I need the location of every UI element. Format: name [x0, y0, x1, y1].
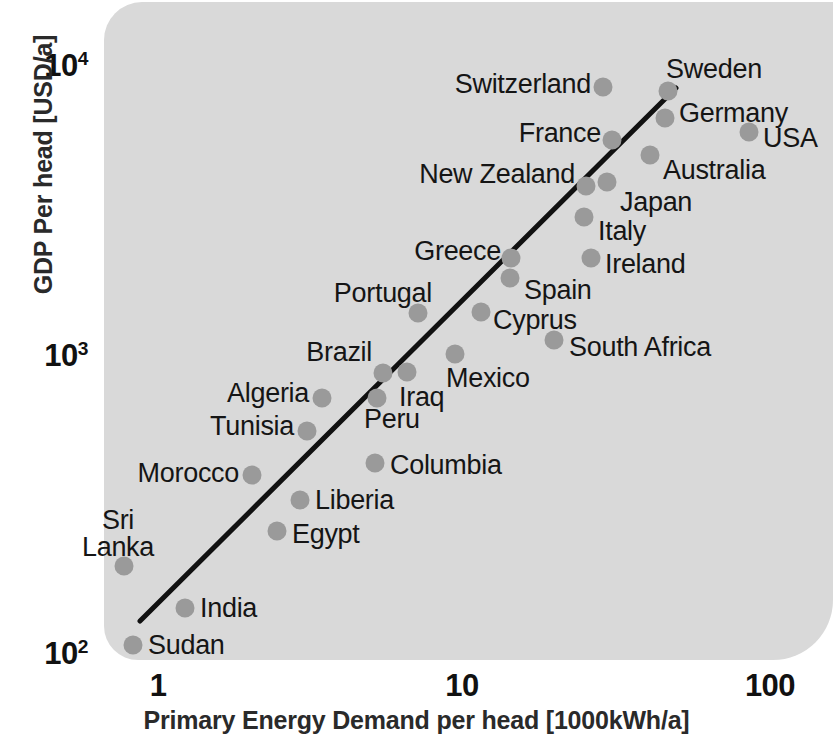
datapoint-greece[interactable]: [502, 249, 521, 268]
datapoint-algeria[interactable]: [313, 389, 332, 408]
point-label-south-africa: South Africa: [569, 333, 711, 361]
point-label-liberia: Liberia: [315, 486, 394, 514]
point-label-sri-lanka-line2: Lanka: [82, 534, 154, 561]
point-label-australia: Australia: [663, 156, 765, 184]
point-label-portugal: Portugal: [334, 279, 432, 307]
datapoint-india[interactable]: [176, 599, 195, 618]
point-label-cyprus: Cyprus: [493, 306, 577, 334]
datapoint-cyprus[interactable]: [472, 303, 491, 322]
point-label-india: India: [200, 594, 257, 622]
datapoint-brazil[interactable]: [374, 364, 393, 383]
point-label-france: France: [519, 119, 601, 147]
x-axis-title: Primary Energy Demand per head [1000kWh/…: [0, 706, 833, 735]
datapoint-iraq[interactable]: [398, 363, 417, 382]
point-label-morocco: Morocco: [138, 459, 239, 487]
point-label-usa: USA: [763, 124, 818, 152]
point-label-new-zealand: New Zealand: [419, 160, 575, 188]
y-tick-10e2-exp: 2: [78, 636, 88, 657]
point-label-sweden: Sweden: [666, 55, 762, 83]
point-label-ireland: Ireland: [605, 250, 685, 278]
y-tick-10e4-exp: 4: [78, 48, 88, 69]
chart-figure: Sudan India Sri Lanka Egypt Liberia Moro…: [0, 0, 833, 738]
datapoint-liberia[interactable]: [291, 491, 310, 510]
datapoint-columbia[interactable]: [366, 454, 385, 473]
point-label-sudan: Sudan: [148, 631, 225, 659]
datapoint-germany[interactable]: [656, 109, 675, 128]
point-label-columbia: Columbia: [390, 451, 502, 479]
y-tick-10e2-base: 10: [44, 636, 77, 671]
datapoint-mexico[interactable]: [446, 345, 465, 364]
point-label-tunisia: Tunisia: [210, 412, 294, 440]
point-label-spain: Spain: [524, 276, 592, 304]
datapoint-spain[interactable]: [501, 269, 520, 288]
y-axis-title: GDP Per head [USD/a]: [29, 15, 58, 315]
datapoint-tunisia[interactable]: [298, 422, 317, 441]
point-label-switzerland: Switzerland: [455, 70, 591, 98]
datapoint-australia[interactable]: [641, 146, 660, 165]
datapoint-japan[interactable]: [598, 173, 617, 192]
point-label-italy: Italy: [598, 217, 646, 245]
y-tick-10e3: 103: [0, 338, 94, 374]
datapoint-switzerland[interactable]: [594, 78, 613, 97]
point-label-japan: Japan: [620, 188, 692, 216]
y-tick-10e3-base: 10: [44, 338, 77, 373]
point-label-algeria: Algeria: [227, 379, 309, 407]
point-label-sri-lanka-line1: Sri: [82, 507, 154, 534]
datapoint-sweden[interactable]: [659, 82, 678, 101]
point-label-sri-lanka: Sri Lanka: [82, 507, 154, 561]
datapoint-france[interactable]: [603, 131, 622, 150]
point-label-brazil: Brazil: [306, 338, 372, 366]
point-label-iraq: Iraq: [399, 383, 444, 411]
datapoint-morocco[interactable]: [243, 466, 262, 485]
point-label-egypt: Egypt: [292, 520, 360, 548]
x-tick-1: 1: [150, 668, 167, 704]
datapoint-new-zealand[interactable]: [577, 177, 596, 196]
datapoint-sudan[interactable]: [124, 636, 143, 655]
datapoint-ireland[interactable]: [582, 249, 601, 268]
point-label-mexico: Mexico: [446, 364, 530, 392]
datapoint-egypt[interactable]: [268, 522, 287, 541]
datapoint-italy[interactable]: [575, 208, 594, 227]
x-tick-100: 100: [745, 668, 795, 704]
x-tick-10: 10: [445, 668, 478, 704]
y-tick-10e2: 102: [0, 636, 94, 672]
y-tick-10e3-exp: 3: [78, 338, 88, 359]
point-label-greece: Greece: [414, 237, 501, 265]
point-label-germany: Germany: [679, 99, 788, 127]
